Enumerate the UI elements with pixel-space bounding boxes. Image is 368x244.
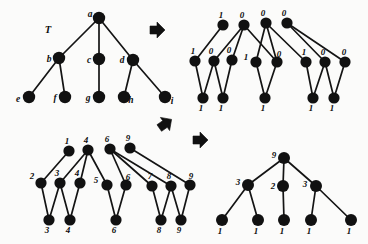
node-label: 0 xyxy=(277,49,282,59)
tree-node xyxy=(307,92,318,103)
tree-node xyxy=(35,177,46,188)
node-label: 8 xyxy=(167,171,172,181)
tree-node xyxy=(159,91,171,103)
tree-node xyxy=(238,19,249,30)
tree-node xyxy=(226,54,237,65)
tree-edge xyxy=(313,62,325,98)
node-label: 1 xyxy=(347,226,352,236)
node-label: 6 xyxy=(112,225,117,235)
node-label: h xyxy=(128,95,133,105)
node-label: 4 xyxy=(74,168,80,178)
tree-node xyxy=(155,214,166,225)
node-label: 1 xyxy=(309,103,314,113)
tree-node xyxy=(252,214,264,226)
node-label: 0 xyxy=(240,10,245,20)
node-label: 9 xyxy=(189,171,194,181)
node-label: 1 xyxy=(244,52,249,62)
transform-arrow-middle-left xyxy=(155,113,176,135)
node-label: 5 xyxy=(94,175,99,185)
tree-node xyxy=(250,56,261,67)
tree-node xyxy=(184,179,195,190)
tree-node xyxy=(319,56,330,67)
node-label: a xyxy=(88,9,93,19)
node-label: 6 xyxy=(105,134,110,144)
node-label: 1 xyxy=(307,226,312,236)
node-label: g xyxy=(85,93,91,103)
tree-edge xyxy=(334,62,345,98)
tree-edge xyxy=(256,23,266,62)
tree-node xyxy=(216,214,228,226)
tree-node xyxy=(242,179,254,191)
node-label: 4 xyxy=(65,225,71,235)
node-label: 1 xyxy=(65,136,70,146)
node-label: 9 xyxy=(272,150,277,160)
tree-caption-T: T xyxy=(45,24,52,35)
tree-node xyxy=(260,17,271,28)
tree-node xyxy=(259,92,270,103)
tree-node xyxy=(189,55,200,66)
tree-node xyxy=(54,177,65,188)
tree-edge xyxy=(29,58,59,97)
node-label: 3 xyxy=(44,225,50,235)
node-label: 1 xyxy=(280,226,285,236)
node-label: c xyxy=(87,55,92,65)
tree-edge xyxy=(41,183,49,220)
node-label: 1 xyxy=(199,103,204,113)
tree-edge xyxy=(223,60,232,98)
node-label: 1 xyxy=(219,10,224,20)
tree-node xyxy=(146,180,157,191)
tree-edge xyxy=(214,61,223,98)
tree-node xyxy=(59,91,71,103)
node-label: 3 xyxy=(302,179,308,189)
tree-node xyxy=(64,214,75,225)
tree-node xyxy=(175,214,186,225)
node-label: 4 xyxy=(83,135,89,145)
node-label: e xyxy=(16,94,21,104)
node-label: 8 xyxy=(157,225,162,235)
tree-edge xyxy=(248,158,284,185)
node-label: f xyxy=(53,93,57,103)
node-label: 9 xyxy=(177,225,182,235)
tree-edge xyxy=(60,183,70,220)
tree-node xyxy=(101,179,112,190)
node-label: 1 xyxy=(191,46,196,56)
tree-edge xyxy=(203,61,214,98)
tree-edge xyxy=(99,18,133,60)
tree-edge xyxy=(195,61,203,98)
tree-node xyxy=(339,56,350,67)
tree-node xyxy=(124,142,135,153)
node-label: i xyxy=(171,96,174,106)
tree-node xyxy=(217,92,228,103)
tree-edge xyxy=(49,183,60,220)
node-label: 1 xyxy=(261,103,266,113)
figure-canvas: abcdefghi 10001001010011111 146923456789… xyxy=(0,0,368,244)
node-label: 0 xyxy=(227,45,232,55)
node-label: 0 xyxy=(282,8,287,18)
transform-arrow-top xyxy=(150,22,165,38)
tree-node xyxy=(63,145,74,156)
tree-edge xyxy=(59,18,99,58)
tree-node xyxy=(43,214,54,225)
tree-node xyxy=(328,92,339,103)
node-label: 0 xyxy=(342,47,347,57)
tree-node xyxy=(82,144,93,155)
transform-arrows xyxy=(150,22,208,148)
node-label: 3 xyxy=(54,168,60,178)
panel-top-left: abcdefghi xyxy=(16,9,174,106)
tree-edge xyxy=(316,186,351,220)
tree-node xyxy=(345,214,357,226)
tree-edge xyxy=(284,158,316,186)
tree-edge xyxy=(70,183,80,220)
node-label: 1 xyxy=(254,226,259,236)
tree-node xyxy=(281,17,292,28)
tree-node xyxy=(197,92,208,103)
tree-edge xyxy=(133,60,165,97)
tree-edge xyxy=(287,23,345,62)
tree-node xyxy=(300,56,311,67)
tree-diagram-svg: abcdefghi 10001001010011111 146923456789… xyxy=(0,0,368,244)
tree-node xyxy=(208,55,219,66)
panel-bottom-right: 932311111 xyxy=(216,150,357,236)
tree-node xyxy=(93,12,105,24)
tree-node xyxy=(305,214,317,226)
node-label: 1 xyxy=(302,47,307,57)
